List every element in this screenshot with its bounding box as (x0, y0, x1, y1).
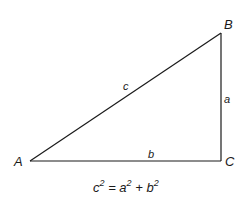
pythagorean-diagram: A B C c a b c2 = a2 + b2 (0, 0, 249, 197)
side-label-a: a (224, 93, 230, 105)
vertex-label-a: A (13, 154, 23, 169)
vertex-label-b: B (224, 17, 233, 32)
formula-plus: + (132, 180, 147, 195)
formula-b-exp: 2 (153, 178, 159, 188)
vertex-label-c: C (225, 154, 235, 169)
triangle (30, 33, 221, 161)
formula-equals: = (105, 180, 120, 195)
side-c-hypotenuse (30, 33, 221, 161)
pythagorean-formula: c2 = a2 + b2 (93, 178, 159, 195)
formula-a: a (119, 180, 126, 195)
side-label-b: b (148, 148, 154, 160)
formula-b: b (146, 180, 153, 195)
side-label-c: c (123, 80, 129, 92)
